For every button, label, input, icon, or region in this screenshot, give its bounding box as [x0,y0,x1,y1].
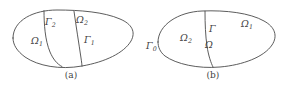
label-gamma-1-a: Γ1 [84,35,95,45]
figure-sheet: Ω1 Ω2 Γ2 Γ1 (a) Γ0 Ω2 Γ Ω [0,0,284,87]
label-gamma-0-b-base: Γ [146,40,153,51]
label-omega-2-b-base: Ω [180,32,188,43]
label-gamma-0-b-sub: 0 [153,45,157,52]
figure-panel-b: Γ0 Ω2 Γ Ω Ω1 (b) [142,0,284,87]
label-omega-2-b: Ω2 [180,33,192,43]
label-omega-b-base: Ω [205,39,213,50]
label-omega-1-a-base: Ω [31,35,39,46]
label-omega-2-b-sub: 2 [188,37,192,44]
label-omega-b: Ω [205,40,213,50]
label-gamma-2-a-sub: 2 [52,21,56,28]
label-gamma-b: Γ [209,24,216,34]
label-gamma-2-a-base: Γ [45,16,52,27]
label-gamma-1-a-sub: 1 [91,39,95,46]
label-omega-2-a-base: Ω [76,14,84,25]
label-gamma-2-a: Γ2 [45,17,56,27]
label-omega-2-a-sub: 2 [84,19,88,26]
label-omega-1-a: Ω1 [31,36,43,46]
label-gamma-0-b: Γ0 [146,41,157,51]
label-omega-1-a-sub: 1 [39,40,43,47]
label-omega-1-b-base: Ω [241,18,249,29]
label-omega-1-b: Ω1 [241,19,253,29]
label-gamma-1-a-base: Γ [84,34,91,45]
domain-outer-boundary-b [158,11,275,68]
figure-panel-a: Ω1 Ω2 Γ2 Γ1 (a) [0,0,142,87]
label-omega-2-a: Ω2 [76,15,88,25]
label-omega-1-b-sub: 1 [249,23,253,30]
figure-caption-a: (a) [0,70,142,80]
label-gamma-b-base: Γ [209,23,216,34]
figure-caption-b: (b) [142,70,284,80]
